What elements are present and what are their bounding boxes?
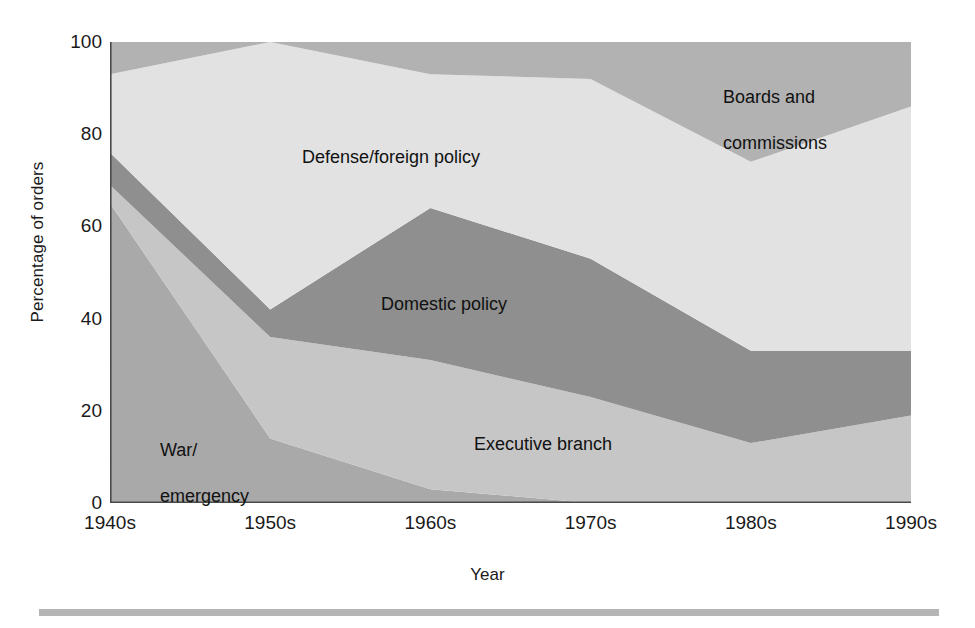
x-tick-label-1960s: 1960s (370, 512, 490, 533)
bottom-rule (39, 609, 939, 616)
x-axis-title: Year (0, 565, 975, 585)
y-tick-label-60: 60 (58, 216, 102, 235)
series-label-boards-line2: commissions (723, 133, 827, 153)
series-label-war-emergency: War/ emergency (130, 416, 249, 531)
y-tick-label-20: 20 (58, 401, 102, 420)
y-tick-label-100: 100 (58, 32, 102, 51)
x-tick-label-1980s: 1980s (691, 512, 811, 533)
x-tick-label-1970s: 1970s (531, 512, 651, 533)
y-tick-label-80: 80 (58, 124, 102, 143)
y-tick-labels: 0 20 40 60 80 100 (50, 0, 102, 628)
y-tick-label-40: 40 (58, 309, 102, 328)
series-label-boards-and-commissions: Boards and commissions (693, 63, 827, 178)
series-label-war-line2: emergency (160, 486, 249, 506)
plot-area: Boards and commissions Defense/foreign p… (110, 42, 911, 503)
series-label-executive-branch: Executive branch (474, 433, 612, 456)
y-tick-label-0: 0 (58, 493, 102, 512)
y-axis-title: Percentage of orders (28, 142, 48, 342)
x-tick-label-1990s: 1990s (851, 512, 971, 533)
series-label-war-line1: War/ (160, 440, 197, 460)
series-label-boards-line1: Boards and (723, 87, 815, 107)
chart-figure: Percentage of orders 0 20 40 60 80 100 1… (0, 0, 975, 628)
series-label-defense-foreign-policy: Defense/foreign policy (302, 146, 480, 169)
series-label-domestic-policy: Domestic policy (381, 293, 507, 316)
